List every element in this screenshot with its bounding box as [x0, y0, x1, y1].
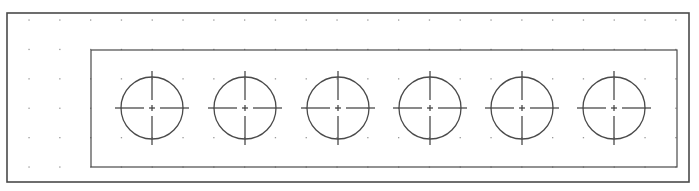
grid-dot	[152, 19, 153, 20]
grid-dot	[59, 49, 60, 50]
grid-dot	[121, 19, 122, 20]
snap-grid	[28, 19, 676, 167]
grid-dot	[583, 19, 584, 20]
grid-dot	[398, 137, 399, 138]
hole-pattern	[115, 71, 651, 145]
grid-dot	[275, 137, 276, 138]
grid-dot	[675, 78, 676, 79]
grid-dot	[28, 49, 29, 50]
grid-dot	[398, 19, 399, 20]
grid-dot	[583, 137, 584, 138]
grid-dot	[675, 108, 676, 109]
grid-dot	[644, 78, 645, 79]
grid-dot	[644, 19, 645, 20]
grid-dot	[336, 19, 337, 20]
hole-6[interactable]	[577, 71, 651, 145]
grid-dot	[367, 137, 368, 138]
grid-dot	[182, 19, 183, 20]
grid-dot	[213, 19, 214, 20]
grid-dot	[28, 78, 29, 79]
grid-dot	[614, 19, 615, 20]
hole-4[interactable]	[393, 71, 467, 145]
grid-dot	[367, 19, 368, 20]
grid-dot	[583, 78, 584, 79]
hole-2[interactable]	[208, 71, 282, 145]
grid-dot	[59, 78, 60, 79]
grid-dot	[306, 19, 307, 20]
grid-dot	[552, 137, 553, 138]
hole-1[interactable]	[115, 71, 189, 145]
grid-dot	[213, 78, 214, 79]
grid-dot	[59, 166, 60, 167]
grid-dot	[460, 19, 461, 20]
grid-dot	[90, 19, 91, 20]
grid-dot	[490, 137, 491, 138]
grid-dot	[675, 19, 676, 20]
grid-dot	[213, 137, 214, 138]
cad-drawing-canvas[interactable]	[0, 0, 699, 191]
grid-dot	[59, 137, 60, 138]
grid-dot	[460, 78, 461, 79]
grid-dot	[490, 19, 491, 20]
grid-dot	[59, 108, 60, 109]
grid-dot	[275, 78, 276, 79]
grid-dot	[490, 78, 491, 79]
grid-dot	[28, 19, 29, 20]
grid-dot	[121, 137, 122, 138]
grid-dot	[398, 78, 399, 79]
grid-dot	[552, 19, 553, 20]
grid-dot	[306, 137, 307, 138]
grid-dot	[182, 137, 183, 138]
grid-dot	[429, 19, 430, 20]
grid-dot	[521, 19, 522, 20]
grid-dot	[552, 78, 553, 79]
grid-dot	[306, 78, 307, 79]
grid-dot	[644, 137, 645, 138]
grid-dot	[275, 19, 276, 20]
grid-dot	[460, 137, 461, 138]
grid-dot	[675, 137, 676, 138]
hole-5[interactable]	[485, 71, 559, 145]
grid-dot	[28, 108, 29, 109]
grid-dot	[121, 78, 122, 79]
hole-3[interactable]	[301, 71, 375, 145]
grid-dot	[28, 166, 29, 167]
grid-dot	[367, 78, 368, 79]
grid-dot	[28, 137, 29, 138]
outer-frame	[7, 13, 689, 182]
grid-dot	[59, 19, 60, 20]
grid-dot	[182, 78, 183, 79]
grid-dot	[244, 19, 245, 20]
